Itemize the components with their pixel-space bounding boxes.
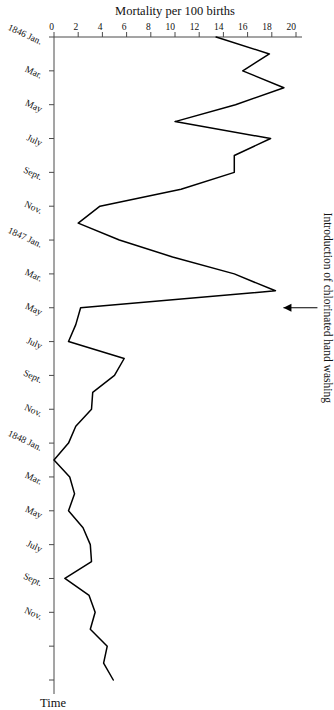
value-tick-label: 16 [238, 22, 248, 32]
value-tick-label: 4 [98, 22, 103, 32]
value-tick-label: 12 [190, 22, 200, 32]
time-tick-label: Mar. [23, 470, 43, 487]
time-tick-label: 1848 Jan. [6, 428, 43, 452]
value-tick-label: 18 [262, 22, 272, 32]
value-tick-label: 10 [166, 22, 176, 32]
chart-canvas: 024681012141618201846 Jan.Mar.MayJulySep… [0, 0, 334, 710]
value-axis-title: Mortality per 100 births [115, 4, 235, 18]
time-tick-label: May [24, 98, 44, 115]
value-tick-label: 0 [49, 22, 54, 32]
time-axis-title: Time [40, 696, 66, 710]
annotation-text: Introduction of chlorinated hand washing [321, 213, 334, 404]
time-tick-label: July [25, 335, 44, 351]
time-tick-label: 1846 Jan. [6, 22, 43, 46]
time-tick-label: Mar. [23, 267, 43, 284]
value-tick-label: 8 [146, 22, 151, 32]
value-tick-label: 20 [287, 22, 297, 32]
time-tick-label: Sept. [22, 368, 44, 385]
time-tick-label: Nov. [23, 199, 44, 216]
time-tick-label: Mar. [23, 64, 43, 81]
time-tick-label: May [24, 504, 44, 521]
time-tick-label: July [25, 132, 44, 148]
time-tick-label: May [24, 301, 44, 318]
value-tick-label: 2 [73, 22, 78, 32]
right-arrow-icon [283, 304, 291, 312]
mortality-series-line [54, 37, 284, 680]
value-tick-label: 6 [122, 22, 127, 32]
time-tick-label: July [25, 538, 44, 554]
time-tick-label: Nov. [23, 605, 44, 622]
plot-area: 024681012141618201846 Jan.Mar.MayJulySep… [0, 0, 334, 710]
value-tick-label: 14 [214, 22, 224, 32]
line-chart-svg: 024681012141618201846 Jan.Mar.MayJulySep… [0, 0, 334, 710]
time-tick-label: 1847 Jan. [6, 225, 43, 249]
rotated-figure-wrapper: 024681012141618201846 Jan.Mar.MayJulySep… [0, 0, 334, 710]
time-tick-label: Sept. [22, 571, 44, 588]
time-tick-label: Nov. [23, 402, 44, 419]
time-tick-label: Sept. [22, 165, 44, 182]
